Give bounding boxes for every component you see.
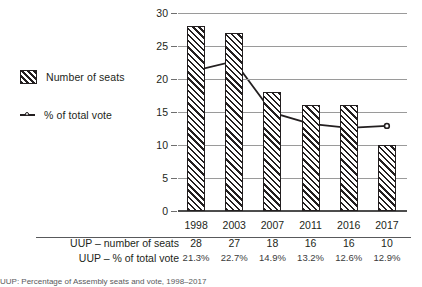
- gridline: [178, 112, 407, 113]
- chart-figure: Number of seats % of total vote 05101520…: [0, 0, 422, 287]
- legend-label-percent-of-total-vote: % of total vote: [44, 109, 112, 121]
- x-axis-category-label: 2007: [252, 219, 292, 231]
- table-cell: 10: [367, 237, 407, 249]
- legend-label-number-of-seats: Number of seats: [46, 71, 125, 83]
- x-axis-category-labels: 199820032007201120162017: [178, 219, 407, 235]
- line-circle-marker-icon: [20, 109, 35, 121]
- y-axis-tick: [171, 46, 177, 47]
- table-row-label-seats: UUP – number of seats: [70, 237, 179, 249]
- gridline: [178, 145, 407, 146]
- plot-area: 051015202530: [178, 13, 407, 211]
- y-axis-tick: [171, 112, 177, 113]
- y-axis-tick-label: 0: [148, 205, 168, 217]
- y-axis-tick-label: 10: [148, 139, 168, 151]
- bar: [378, 145, 396, 211]
- y-axis-tick: [171, 79, 177, 80]
- hatched-square-swatch-icon: [20, 70, 37, 84]
- table-cell: 16: [329, 237, 369, 249]
- y-axis-tick: [171, 13, 177, 14]
- table-cell: 13.2%: [291, 252, 331, 263]
- table-cell: 21.3%: [176, 252, 216, 263]
- table-cell: 22.7%: [214, 252, 254, 263]
- legend-item-number-of-seats: Number of seats: [20, 64, 160, 90]
- table-cell: 27: [214, 237, 254, 249]
- bar: [263, 92, 281, 211]
- chart-legend: Number of seats % of total vote: [20, 64, 160, 140]
- y-axis-tick-label: 30: [148, 7, 168, 19]
- bar: [225, 33, 243, 211]
- table-cell: 16: [291, 237, 331, 249]
- y-axis-tick: [171, 145, 177, 146]
- y-axis-tick-label: 25: [148, 40, 168, 52]
- table-row-label-percent: UUP – % of total vote: [79, 252, 179, 264]
- x-axis-category-label: 1998: [176, 219, 216, 231]
- x-axis-category-label: 2017: [367, 219, 407, 231]
- gridline: [178, 46, 407, 47]
- y-axis-tick: [171, 211, 177, 212]
- table-cell: 12.6%: [329, 252, 369, 263]
- bar: [340, 105, 358, 211]
- gridline: [178, 13, 407, 14]
- table-cell: 18: [252, 237, 292, 249]
- bar: [187, 26, 205, 211]
- bar: [302, 105, 320, 211]
- table-row: UUP – % of total vote 21.3%22.7%14.9%13.…: [36, 252, 411, 267]
- gridline: [178, 178, 407, 179]
- line-marker: [385, 124, 390, 129]
- legend-item-percent-of-total-vote: % of total vote: [20, 102, 160, 128]
- table-cell: 14.9%: [252, 252, 292, 263]
- table-cell: 12.9%: [367, 252, 407, 263]
- x-axis-category-label: 2016: [329, 219, 369, 231]
- y-axis-tick: [171, 178, 177, 179]
- figure-caption: UUP: Percentage of Assembly seats and vo…: [0, 277, 422, 286]
- y-axis-tick-label: 15: [148, 106, 168, 118]
- y-axis-tick-label: 5: [148, 172, 168, 184]
- y-axis-tick-label: 20: [148, 73, 168, 85]
- gridline: [178, 79, 407, 80]
- x-axis-category-label: 2011: [291, 219, 331, 231]
- data-table: UUP – number of seats 282718161610 UUP –…: [36, 237, 411, 267]
- x-axis-category-label: 2003: [214, 219, 254, 231]
- table-cell: 28: [176, 237, 216, 249]
- table-row: UUP – number of seats 282718161610: [36, 237, 411, 252]
